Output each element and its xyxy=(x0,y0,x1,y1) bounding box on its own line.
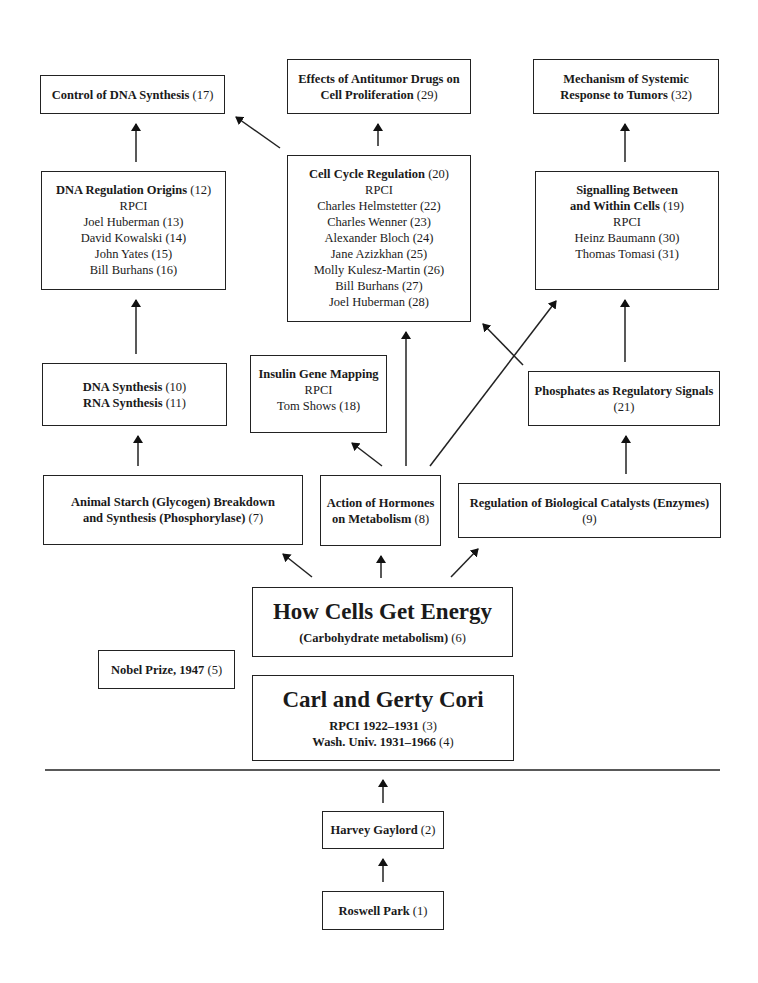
node-title-line1: Signalling Between xyxy=(576,182,678,198)
node-subtitle: (Carbohydrate metabolism) xyxy=(299,631,448,645)
node-number: (17) xyxy=(192,88,213,102)
node-number: (4) xyxy=(439,735,454,749)
node-title: Control of DNA Synthesis xyxy=(52,88,190,102)
person-name: John Yates (15) xyxy=(95,246,172,262)
node-roswell-park: Roswell Park (1) xyxy=(322,891,444,930)
person-name: Charles Wenner (23) xyxy=(327,214,431,230)
node-title: Phosphates as Regulatory Signals xyxy=(535,383,714,399)
node-title: Regulation of Biological Catalysts (Enzy… xyxy=(470,495,710,511)
node-number: (19) xyxy=(663,199,684,213)
institution-label: RPCI xyxy=(613,214,641,230)
node-title: RNA Synthesis xyxy=(83,396,163,410)
node-number: (1) xyxy=(413,904,428,918)
node-animal-starch: Animal Starch (Glycogen) Breakdown and S… xyxy=(43,475,303,545)
node-title: Harvey Gaylord xyxy=(331,823,418,837)
institution-label: RPCI xyxy=(120,198,148,214)
person-name: Joel Huberman (28) xyxy=(329,294,429,310)
person-name: Heinz Baumann (30) xyxy=(575,230,680,246)
person-name: Jane Azizkhan (25) xyxy=(331,246,428,262)
person-name: Alexander Bloch (24) xyxy=(325,230,434,246)
node-regulation-enzymes: Regulation of Biological Catalysts (Enzy… xyxy=(458,483,721,538)
node-phosphates-signals: Phosphates as Regulatory Signals (21) xyxy=(528,371,720,426)
node-carl-gerty-cori: Carl and Gerty Cori RPCI 1922–1931 (3) W… xyxy=(252,675,514,761)
node-control-dna-synthesis: Control of DNA Synthesis (17) xyxy=(40,75,225,114)
node-title: How Cells Get Energy xyxy=(273,598,492,626)
node-title-line2: Cell Proliferation xyxy=(320,88,413,102)
node-number: (5) xyxy=(207,663,222,677)
node-number: (2) xyxy=(421,823,436,837)
node-number: (6) xyxy=(451,631,466,645)
node-title: Nobel Prize, 1947 xyxy=(111,663,204,677)
node-number: (20) xyxy=(428,167,449,181)
node-dna-regulation-origins: DNA Regulation Origins (12) RPCI Joel Hu… xyxy=(41,171,226,290)
node-title-line2: and Within Cells xyxy=(570,199,660,213)
person-name: Bill Burhans (16) xyxy=(90,262,178,278)
node-number: (12) xyxy=(190,183,211,197)
node-title-line2: Response to Tumors xyxy=(560,88,668,102)
node-number: (11) xyxy=(166,396,186,410)
person-name: Bill Burhans (27) xyxy=(335,278,423,294)
node-title: DNA Synthesis xyxy=(83,380,163,394)
node-title-line1: Animal Starch (Glycogen) Breakdown xyxy=(71,494,275,510)
node-title-line1: Mechanism of Systemic xyxy=(563,71,689,87)
node-title-line1: Action of Hormones xyxy=(327,495,435,511)
node-title: Cell Cycle Regulation xyxy=(309,167,425,181)
node-title: Insulin Gene Mapping xyxy=(258,366,378,382)
person-name: Thomas Tomasi (31) xyxy=(575,246,679,262)
node-number: (7) xyxy=(249,511,264,525)
person-name: David Kowalski (14) xyxy=(81,230,187,246)
person-name: Molly Kulesz-Martin (26) xyxy=(314,262,445,278)
node-title-line2: and Synthesis (Phosphorylase) xyxy=(83,511,246,525)
node-title-line2: on Metabolism xyxy=(332,512,412,526)
node-number: (10) xyxy=(165,380,186,394)
node-number: (8) xyxy=(415,512,430,526)
institution-label: RPCI xyxy=(365,182,393,198)
node-number: (3) xyxy=(422,719,437,733)
node-how-cells-get-energy: How Cells Get Energy (Carbohydrate metab… xyxy=(252,587,513,657)
node-nobel-prize: Nobel Prize, 1947 (5) xyxy=(98,650,235,689)
node-title: Roswell Park xyxy=(339,904,410,918)
node-cell-cycle-regulation: Cell Cycle Regulation (20) RPCI Charles … xyxy=(287,155,471,322)
node-title: Carl and Gerty Cori xyxy=(282,686,483,714)
person-name: Tom Shows (18) xyxy=(277,398,360,414)
node-title-line1: Effects of Antitumor Drugs on xyxy=(298,71,460,87)
node-systemic-response: Mechanism of Systemic Response to Tumors… xyxy=(533,59,719,114)
node-title: DNA Regulation Origins xyxy=(56,183,187,197)
institution-label: RPCI xyxy=(305,382,333,398)
node-number: (29) xyxy=(417,88,438,102)
node-number: (32) xyxy=(671,88,692,102)
node-dna-rna-synthesis: DNA Synthesis (10) RNA Synthesis (11) xyxy=(42,363,227,426)
node-insulin-gene-mapping: Insulin Gene Mapping RPCI Tom Shows (18) xyxy=(250,355,387,433)
node-antitumor-drugs: Effects of Antitumor Drugs on Cell Proli… xyxy=(287,59,471,114)
node-signalling-cells: Signalling Between and Within Cells (19)… xyxy=(535,171,719,290)
person-name: Charles Helmstetter (22) xyxy=(317,198,441,214)
person-name: Joel Huberman (13) xyxy=(84,214,184,230)
node-hormones-metabolism: Action of Hormones on Metabolism (8) xyxy=(320,475,441,546)
node-affiliation: Wash. Univ. 1931–1966 xyxy=(312,735,436,749)
node-harvey-gaylord: Harvey Gaylord (2) xyxy=(322,811,444,849)
node-number: (21) xyxy=(614,399,635,415)
node-affiliation: RPCI 1922–1931 xyxy=(329,719,419,733)
node-number: (9) xyxy=(582,511,597,527)
